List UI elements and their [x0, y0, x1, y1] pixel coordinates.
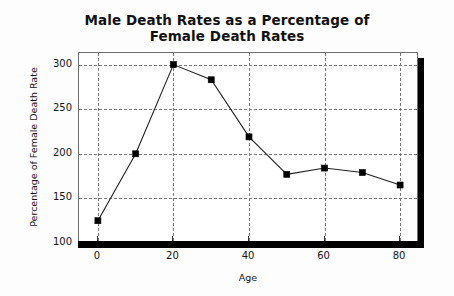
chart-title-line-1: Male Death Rates as a Percentage of: [0, 12, 454, 28]
x-axis-tick-label: 60: [304, 250, 344, 261]
x-axis-tick-label: 80: [379, 250, 419, 261]
x-axis-tick-label: 20: [152, 250, 192, 261]
x-axis-label: Age: [78, 272, 418, 283]
data-point-marker: [133, 151, 139, 157]
y-axis-tick-label: 250: [38, 102, 72, 113]
data-point-marker: [284, 171, 290, 177]
data-point-marker: [208, 77, 214, 83]
chart-figure: Male Death Rates as a Percentage of Fema…: [0, 0, 454, 296]
x-axis-tick-mark: [399, 236, 400, 241]
data-point-marker: [170, 62, 176, 68]
data-point-marker: [322, 165, 328, 171]
data-point-marker: [359, 170, 365, 176]
x-axis-tick-mark: [248, 236, 249, 241]
data-series: [79, 53, 419, 243]
data-point-marker: [397, 182, 403, 188]
x-axis-tick-label: 0: [77, 250, 117, 261]
x-axis-tick-label: 40: [228, 250, 268, 261]
x-axis-tick-mark: [324, 236, 325, 241]
y-axis-tick-label: 150: [38, 191, 72, 202]
chart-title-line-2: Female Death Rates: [0, 28, 454, 44]
plot-area: [78, 52, 418, 242]
data-point-marker: [95, 218, 101, 224]
x-axis-tick-mark: [172, 236, 173, 241]
chart-title: Male Death Rates as a Percentage of Fema…: [0, 12, 454, 44]
data-point-marker: [246, 134, 252, 140]
series-line: [98, 65, 400, 221]
x-axis-tick-mark: [97, 236, 98, 241]
y-axis-tick-label: 200: [38, 147, 72, 158]
x-axis-bar: [78, 241, 418, 248]
y-axis-tick-label: 300: [38, 58, 72, 69]
y-axis-tick-label: 100: [38, 236, 72, 247]
